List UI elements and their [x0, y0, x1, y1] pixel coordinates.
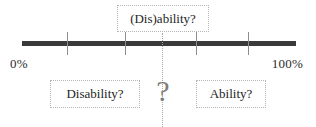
disability-ability-continuum-diagram: (Dis)ability? 0% 100% Disability? ? Abil… — [0, 0, 316, 127]
axis-start-label: 0% — [10, 56, 28, 72]
axis-tick-2 — [125, 32, 126, 55]
label-box-disability: Disability? — [50, 80, 140, 108]
continuum-axis-line — [22, 41, 296, 46]
axis-tick-4 — [248, 32, 249, 55]
axis-end-label: 100% — [272, 56, 303, 72]
label-text-disability-ability: (Dis)ability? — [130, 11, 196, 27]
label-text-disability: Disability? — [66, 86, 123, 102]
label-text-ability: Ability? — [210, 86, 253, 102]
center-question-mark: ? — [150, 75, 176, 107]
label-box-disability-ability: (Dis)ability? — [117, 5, 209, 32]
axis-tick-3 — [196, 32, 197, 55]
axis-tick-1 — [67, 32, 68, 55]
label-box-ability: Ability? — [196, 80, 266, 108]
